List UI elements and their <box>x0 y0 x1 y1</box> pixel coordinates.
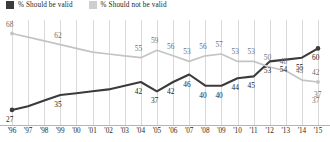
x-tick-label: '03 <box>120 127 128 135</box>
chart-legend: % Should be valid % Should not be valid <box>6 1 167 9</box>
data-label: 40 <box>215 92 222 99</box>
x-tick-label: '10 <box>233 127 241 135</box>
x-tick-label: '05 <box>153 127 161 135</box>
data-label: 35 <box>54 101 61 108</box>
data-label: 27 <box>6 116 13 123</box>
x-tick-label: '14 <box>298 127 306 135</box>
series-endpoint-marker <box>10 32 14 36</box>
legend-label-should-not-be-valid: % Should not be valid <box>101 1 167 9</box>
legend-swatch-light <box>89 1 97 9</box>
x-axis-ticks: '96'97'98'99'00'01'02'03'04'05'06'07'08'… <box>0 127 330 141</box>
x-tick-label: '11 <box>249 127 257 135</box>
data-label: 53 <box>264 67 271 74</box>
data-label: 56 <box>167 43 174 50</box>
x-tick-label: '08 <box>201 127 209 135</box>
data-label: 53 <box>183 48 190 55</box>
x-tick-label: '13 <box>282 127 290 135</box>
data-label: 56 <box>199 43 206 50</box>
data-label: 42 <box>135 88 142 95</box>
data-label: 48 <box>280 58 287 65</box>
x-tick-label: '99 <box>56 127 64 135</box>
x-tick-label: '96 <box>8 127 16 135</box>
data-label: 43 <box>296 67 303 74</box>
series-line-light <box>12 34 318 83</box>
x-tick-label: '12 <box>265 127 273 135</box>
series-endpoint-marker <box>316 80 320 84</box>
series-endpoint-marker <box>10 108 15 113</box>
data-label: 37 <box>314 91 321 98</box>
data-label: 46 <box>183 81 190 88</box>
legend-swatch-dark <box>6 1 14 9</box>
x-tick-label: '97 <box>24 127 32 135</box>
x-tick-label: '04 <box>137 127 145 135</box>
x-tick-label: '07 <box>185 127 193 135</box>
data-label: 42 <box>167 88 174 95</box>
data-label: 68 <box>6 21 13 28</box>
x-tick-label: '98 <box>40 127 48 135</box>
data-label: 55 <box>135 45 142 52</box>
legend-item-should-be-valid: % Should be valid <box>6 1 73 9</box>
data-label: 45 <box>248 82 255 89</box>
data-label: 60 <box>312 54 319 61</box>
data-label: 50 <box>264 54 271 61</box>
data-label: 53 <box>248 48 255 55</box>
x-tick-label: '09 <box>217 127 225 135</box>
data-label: 44 <box>232 84 239 91</box>
legend-label-should-be-valid: % Should be valid <box>18 1 73 9</box>
data-label: 57 <box>215 41 222 48</box>
data-label: 59 <box>151 37 158 44</box>
x-tick-label: '00 <box>72 127 80 135</box>
data-label: 54 <box>280 66 287 73</box>
x-tick-label: '01 <box>88 127 96 135</box>
data-label: 62 <box>54 32 61 39</box>
x-tick-label: '02 <box>104 127 112 135</box>
x-tick-label: '15 <box>314 127 322 135</box>
x-tick-label: '06 <box>169 127 177 135</box>
data-label: 53 <box>232 48 239 55</box>
data-label: 37 <box>151 97 158 104</box>
data-label: 40 <box>199 92 206 99</box>
data-label: 42 <box>312 69 319 76</box>
axis-baseline <box>0 125 330 126</box>
legend-item-should-not-be-valid: % Should not be valid <box>89 1 167 9</box>
series-endpoint-marker <box>316 46 321 51</box>
line-chart: % Should be valid % Should not be valid … <box>0 0 330 142</box>
plot-area: 2735423742464040444553545560686255595653… <box>0 20 330 125</box>
